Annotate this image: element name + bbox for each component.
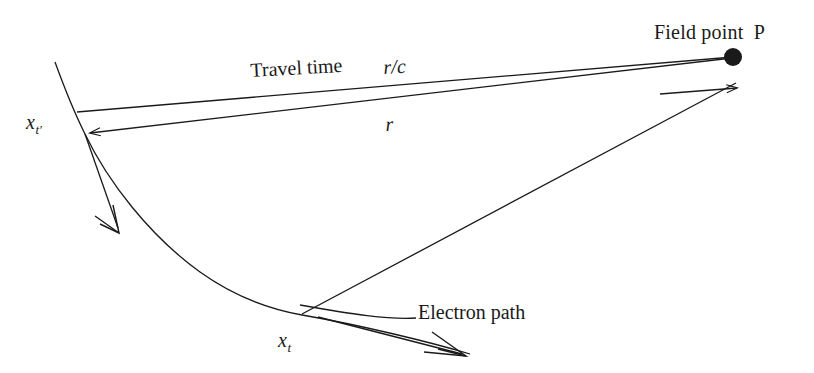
travel-time-value-label: r/c	[383, 56, 406, 77]
present-position-symbol: x	[278, 329, 287, 351]
line-from-present-position	[302, 83, 736, 314]
distance-r-label: r	[385, 114, 394, 134]
present-position-subscript: t	[287, 340, 291, 355]
physics-diagram: Field point P Travel time r/c r xt′ xt E…	[0, 0, 814, 373]
velocity-arrow-present-head-outer	[424, 332, 466, 356]
diagram-canvas	[0, 0, 814, 373]
electron-path-label: Electron path	[418, 302, 525, 322]
distance-r-line	[90, 58, 732, 133]
retarded-position-symbol: x	[26, 111, 35, 133]
velocity-arrow-retarded-head-outer	[95, 205, 119, 233]
retarded-position-prime: ′	[39, 122, 42, 137]
travel-time-label: Travel time	[250, 55, 343, 80]
present-position-label: xt	[278, 330, 291, 354]
retarded-position-label: xt′	[26, 112, 42, 136]
field-point-label: Field point P	[654, 22, 765, 42]
velocity-arrow-retarded-head-inner	[100, 224, 119, 233]
electron-path-curve	[55, 62, 470, 354]
field-point-dot	[724, 48, 742, 66]
electron-path-leader-line	[300, 305, 416, 318]
direction-arrow-at-field-point	[660, 88, 737, 94]
